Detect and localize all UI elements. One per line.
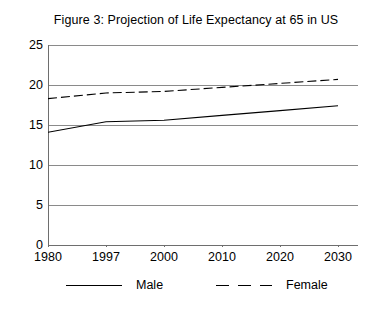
x-tick-label: 2000 bbox=[134, 250, 194, 264]
y-tick-label: 20 bbox=[3, 79, 43, 91]
legend-item-female: Female bbox=[216, 275, 328, 295]
x-tick-label: 1980 bbox=[18, 250, 78, 264]
series-line-female bbox=[48, 79, 338, 98]
y-tick-label: 25 bbox=[3, 39, 43, 51]
page-title: Figure 3: Projection of Life Expectancy … bbox=[0, 13, 392, 27]
y-axis-labels: 25 20 15 10 5 0 bbox=[0, 45, 43, 245]
legend-line-dashed-icon bbox=[216, 279, 272, 291]
y-tick-label: 10 bbox=[3, 159, 43, 171]
legend-label-female: Female bbox=[286, 278, 328, 292]
x-tick-label: 2030 bbox=[308, 250, 368, 264]
y-tick-label: 15 bbox=[3, 119, 43, 131]
x-tick-label: 1997 bbox=[76, 250, 136, 264]
plot-area bbox=[48, 45, 358, 245]
legend-label-male: Male bbox=[136, 278, 163, 292]
x-tick-label: 2020 bbox=[250, 250, 310, 264]
axis-lines bbox=[48, 45, 358, 246]
legend-item-male: Male bbox=[66, 275, 163, 295]
x-axis-labels: 1980 1997 2000 2010 2020 2030 bbox=[0, 250, 392, 268]
figure-container: Figure 3: Projection of Life Expectancy … bbox=[0, 0, 392, 310]
gridlines bbox=[48, 46, 358, 206]
x-tick-label: 2010 bbox=[192, 250, 252, 264]
y-tick-label: 5 bbox=[3, 199, 43, 211]
chart-canvas bbox=[48, 45, 360, 247]
chart-legend: Male Female bbox=[0, 275, 392, 297]
legend-line-solid-icon bbox=[66, 279, 122, 291]
series-line-male bbox=[48, 106, 338, 132]
